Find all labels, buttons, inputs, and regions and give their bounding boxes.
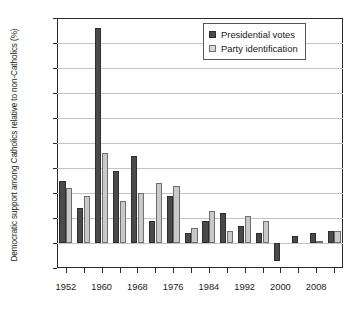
bar bbox=[238, 226, 244, 244]
bar bbox=[185, 233, 191, 243]
bar bbox=[316, 241, 322, 244]
y-axis-title-container: Democratic support among Catholics relat… bbox=[0, 0, 30, 290]
bar bbox=[77, 208, 83, 243]
x-tick-mark bbox=[102, 268, 103, 273]
x-axis: 19521960196819761984199220002008 bbox=[57, 268, 343, 317]
bar bbox=[95, 28, 101, 243]
bar bbox=[256, 233, 262, 243]
bar bbox=[274, 243, 280, 261]
x-tick-mark bbox=[66, 268, 67, 273]
bar bbox=[202, 221, 208, 244]
bar bbox=[156, 183, 162, 243]
legend-item-party-identification: Party identification bbox=[209, 41, 298, 55]
bar bbox=[113, 171, 119, 244]
bar bbox=[209, 211, 215, 244]
x-tick-mark bbox=[316, 268, 317, 273]
chart-legend: Presidential votes Party identification bbox=[203, 23, 306, 60]
x-tick-mark bbox=[120, 268, 121, 273]
x-tick-mark bbox=[227, 268, 228, 273]
x-tick-mark bbox=[84, 268, 85, 273]
legend-swatch-icon bbox=[209, 45, 216, 52]
legend-item-presidential-votes: Presidential votes bbox=[209, 27, 298, 41]
bar bbox=[310, 233, 316, 243]
bar bbox=[191, 228, 197, 243]
bar bbox=[245, 216, 251, 244]
bar bbox=[328, 231, 334, 244]
y-axis-title: Democratic support among Catholics relat… bbox=[10, 29, 20, 262]
x-tick-mark bbox=[245, 268, 246, 273]
legend-label: Party identification bbox=[221, 43, 298, 54]
bar bbox=[334, 231, 340, 244]
bar bbox=[131, 156, 137, 244]
x-tick-mark bbox=[155, 268, 156, 273]
x-tick-mark bbox=[298, 268, 299, 273]
legend-swatch-icon bbox=[209, 31, 216, 38]
bar bbox=[84, 196, 90, 244]
bar bbox=[173, 186, 179, 244]
x-tick-label: 2008 bbox=[292, 282, 340, 293]
x-tick-mark bbox=[191, 268, 192, 273]
bar bbox=[59, 181, 65, 244]
bar bbox=[138, 193, 144, 243]
bar bbox=[167, 196, 173, 244]
x-tick-mark bbox=[280, 268, 281, 273]
x-tick-mark bbox=[334, 268, 335, 273]
bar bbox=[102, 153, 108, 243]
bar bbox=[120, 201, 126, 244]
x-tick-mark bbox=[137, 268, 138, 273]
bar bbox=[263, 221, 269, 244]
x-tick-mark bbox=[209, 268, 210, 273]
x-tick-mark bbox=[263, 268, 264, 273]
bar bbox=[66, 188, 72, 243]
chart-figure: Democratic support among Catholics relat… bbox=[0, 0, 356, 317]
bar bbox=[227, 231, 233, 244]
bar bbox=[220, 213, 226, 243]
bar bbox=[292, 236, 298, 244]
bar bbox=[149, 221, 155, 244]
x-tick-mark bbox=[173, 268, 174, 273]
legend-label: Presidential votes bbox=[221, 29, 295, 40]
